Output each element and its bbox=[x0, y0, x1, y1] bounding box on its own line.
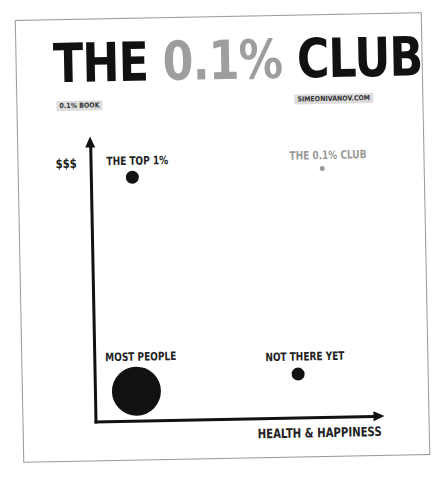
chart-title: THE 0.1% CLUB bbox=[53, 28, 386, 94]
point-label-most-people: MOST PEOPLE bbox=[105, 349, 176, 364]
point-01-club bbox=[320, 166, 325, 171]
y-axis-label: $$$ bbox=[55, 156, 76, 171]
y-axis-arrow bbox=[89, 146, 97, 423]
chart-card: THE 0.1% CLUB 0.1% BOOK SIMEONIVANOV.COM… bbox=[15, 12, 430, 463]
point-top-1 bbox=[126, 171, 139, 184]
title-part1: THE bbox=[52, 30, 163, 95]
point-most-people bbox=[111, 366, 161, 416]
x-axis-label: HEALTH & HAPPINESS bbox=[258, 424, 382, 441]
x-axis-arrow bbox=[94, 415, 374, 423]
book-tag: 0.1% BOOK bbox=[56, 100, 102, 111]
website-tag: SIMEONIVANOV.COM bbox=[294, 93, 373, 105]
point-label-not-there-yet: NOT THERE YET bbox=[265, 349, 344, 365]
point-label-01-club: THE 0.1% CLUB bbox=[289, 147, 366, 162]
title-part2: CLUB bbox=[282, 25, 423, 91]
title-highlight: 0.1% bbox=[162, 28, 283, 93]
point-label-top-1: THE TOP 1% bbox=[106, 153, 168, 168]
point-not-there-yet bbox=[292, 367, 305, 380]
